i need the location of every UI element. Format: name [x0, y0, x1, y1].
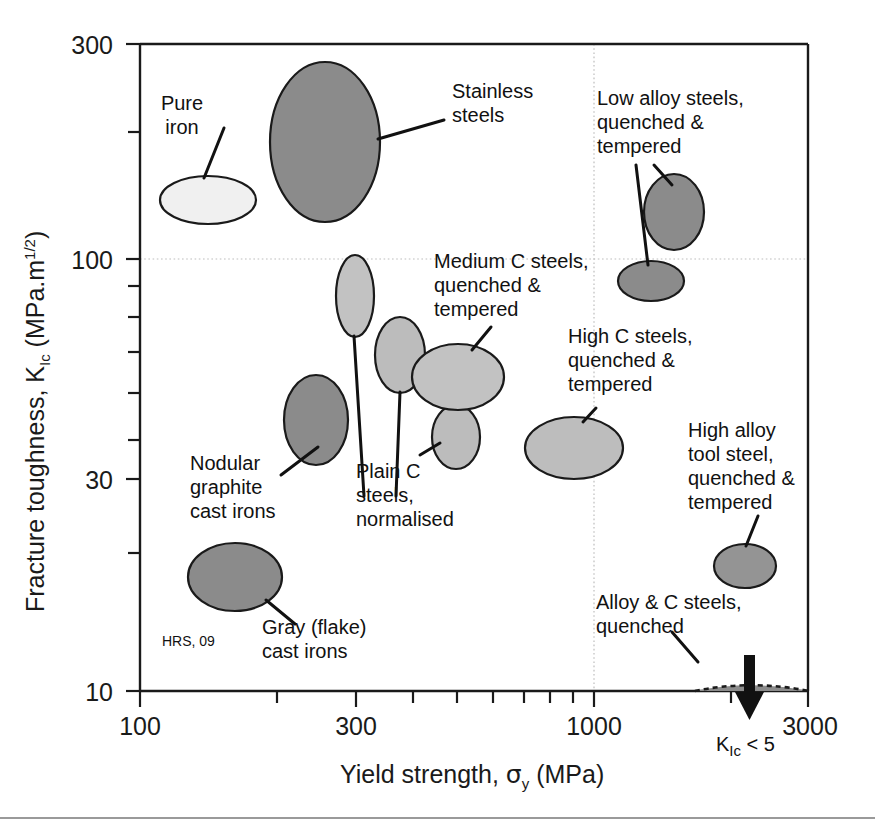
figure-credit: HRS, 09: [162, 633, 215, 649]
y-axis-title: Fracture toughness, KIc (MPa.m1/2): [21, 231, 53, 612]
label-stainless-steels-line-1: steels: [452, 104, 504, 126]
kic-label-sub: Ic: [729, 742, 741, 759]
label-high-c-steels-qt-line-1: quenched &: [568, 349, 675, 371]
label-medium-c-steels-qt-line-2: tempered: [434, 298, 519, 320]
x-axis-title-symbol: σ: [506, 760, 522, 789]
bubble-low-alloy-steels-qt-2[interactable]: [618, 261, 684, 301]
ytick-label-10: 10: [85, 678, 113, 706]
label-low-alloy-steels-qt-line-1: quenched &: [597, 111, 704, 133]
label-low-alloy-steels-qt-line-2: tempered: [597, 135, 682, 157]
arrow-shaft: [744, 655, 755, 697]
xtick-label-100: 100: [119, 712, 161, 740]
bubble-medium-c-steels-qt[interactable]: [412, 344, 504, 410]
xtick-label-1000: 1000: [566, 712, 622, 740]
label-plain-c-line-0: Plain C: [356, 460, 420, 482]
label-gray-flake-line-1: cast irons: [262, 640, 348, 662]
ashby-chart: 300 100 30 10 100 300 1000 3000 Yield st…: [0, 0, 875, 831]
label-high-alloy-tool-steel-qt-line-2: quenched &: [688, 467, 795, 489]
bubble-high-c-steels-qt[interactable]: [525, 417, 623, 479]
label-gray-flake-line-0: Gray (flake): [262, 616, 366, 638]
ytick-label-100: 100: [71, 246, 113, 274]
bubble-pure-iron[interactable]: [160, 176, 256, 224]
label-low-alloy-steels-qt-line-0: Low alloy steels,: [597, 87, 744, 109]
y-axis-title-main: Fracture toughness, K: [21, 366, 49, 612]
label-high-alloy-tool-steel-qt-line-0: High alloy: [688, 419, 776, 441]
y-axis-title-close: ): [21, 231, 49, 239]
xtick-label-300: 300: [335, 712, 377, 740]
x-axis-title-main: Yield strength,: [340, 760, 506, 788]
label-high-alloy-tool-steel-qt-line-1: tool steel,: [688, 443, 774, 465]
svg-text:Fracture toughness, KIc (MPa.: Fracture toughness, KIc (MPa.m1/2): [21, 231, 53, 612]
x-axis-title: Yield strength, σy (MPa): [340, 760, 604, 792]
label-plain-c-line-2: normalised: [356, 508, 454, 530]
bubble-plain-c-steels-normalised-3[interactable]: [432, 405, 480, 469]
label-pure-iron-line-1: iron: [165, 116, 198, 138]
svg-text:Yield strength, σy (MPa): Yield strength, σy (MPa): [340, 760, 604, 792]
bubble-plain-c-steels-normalised[interactable]: [336, 255, 374, 337]
label-pure-iron-line-0: Pure: [161, 92, 203, 114]
ytick-label-300: 300: [71, 31, 113, 59]
label-plain-c-line-1: steels,: [356, 484, 414, 506]
bubble-stainless-steels[interactable]: [270, 62, 380, 222]
label-high-alloy-tool-steel-qt-line-3: tempered: [688, 491, 773, 513]
bubble-low-alloy-steels-qt[interactable]: [644, 174, 704, 250]
figure-canvas: 300 100 30 10 100 300 1000 3000 Yield st…: [0, 0, 875, 831]
label-high-c-steels-qt-line-2: tempered: [568, 373, 653, 395]
bubble-high-alloy-tool-steel-qt[interactable]: [714, 544, 776, 588]
label-nodular-line-1: graphite: [190, 476, 262, 498]
xtick-label-3000: 3000: [782, 712, 838, 740]
label-alloy-c-line-1: quenched: [596, 615, 684, 637]
ytick-label-30: 30: [85, 466, 113, 494]
label-alloy-c-line-0: Alloy & C steels,: [596, 591, 742, 613]
y-axis-title-sub: Ic: [36, 354, 53, 366]
label-nodular-line-0: Nodular: [190, 452, 260, 474]
kic-label-tail: < 5: [741, 733, 775, 755]
bubble-nodular-graphite-cast-irons[interactable]: [284, 375, 348, 465]
y-axis-title-units: (MPa.m: [21, 260, 49, 354]
x-axis-title-units: (MPa): [529, 760, 604, 788]
label-nodular-line-2: cast irons: [190, 500, 276, 522]
kic-label-main: K: [716, 733, 730, 755]
label-stainless-steels-line-0: Stainless: [452, 80, 533, 102]
y-axis-title-sup: 1/2: [21, 239, 38, 260]
label-high-c-steels-qt-line-0: High C steels,: [568, 325, 693, 347]
label-medium-c-steels-qt-line-0: Medium C steels,: [434, 250, 589, 272]
label-medium-c-steels-qt-line-1: quenched &: [434, 274, 541, 296]
